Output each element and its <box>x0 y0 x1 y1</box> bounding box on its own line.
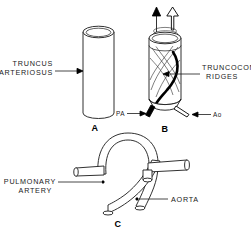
aorta-label: AORTA <box>171 195 199 204</box>
pulmonary-artery-label-line1: PULMONARY <box>4 177 56 186</box>
truncus-arteriosus-label-line1: TRUNCUS <box>13 59 53 68</box>
truncus-cylinder-body <box>83 32 114 119</box>
truncus-arteriosus-label-line2: ARTERIOSUS <box>0 68 53 77</box>
panel-b: PA Ao TRUNCOCONAL RIDGES B <box>116 7 251 134</box>
pulmonary-flow-arrow <box>152 7 160 32</box>
pulmonary-artery-label-line2: ARTERY <box>19 186 52 195</box>
aorta-leader-dot <box>136 198 138 200</box>
pa-leader-arrowhead <box>140 111 146 116</box>
ductus-stub-cap <box>143 178 152 182</box>
aortic-flow-arrow <box>167 7 179 30</box>
ao-leader-arrowhead <box>192 112 198 117</box>
aortic-trunk-opening <box>135 206 145 210</box>
pulmonary-trunk-opening <box>103 211 113 215</box>
ao-abbrev-label: Ao <box>213 111 222 118</box>
truncoconal-ridges-label-line2: RIDGES <box>206 72 238 81</box>
aorta-stub <box>174 106 189 117</box>
pulmonary-artery-stub <box>146 105 156 117</box>
figure-canvas: TRUNCUS ARTERIOSUS A <box>0 0 251 235</box>
right-branch-cap <box>185 160 190 170</box>
truncoconal-ridges-label-line1: TRUNCOCONAL <box>202 63 251 72</box>
pa-abbrev-label: PA <box>116 110 125 117</box>
anatomical-figure: TRUNCUS ARTERIOSUS A <box>0 0 251 235</box>
left-branch-vessel <box>76 166 104 176</box>
panel-a: TRUNCUS ARTERIOSUS A <box>0 26 114 133</box>
left-branch-cap <box>74 168 78 176</box>
panel-b-letter: B <box>162 124 169 134</box>
panel-a-letter: A <box>92 123 99 133</box>
panel-c: PULMONARY ARTERY AORTA C <box>4 133 199 229</box>
truncus-leader-arrowhead <box>77 68 83 73</box>
pulmonary-artery-leader-dot <box>102 181 104 183</box>
panel-c-letter: C <box>115 219 122 229</box>
